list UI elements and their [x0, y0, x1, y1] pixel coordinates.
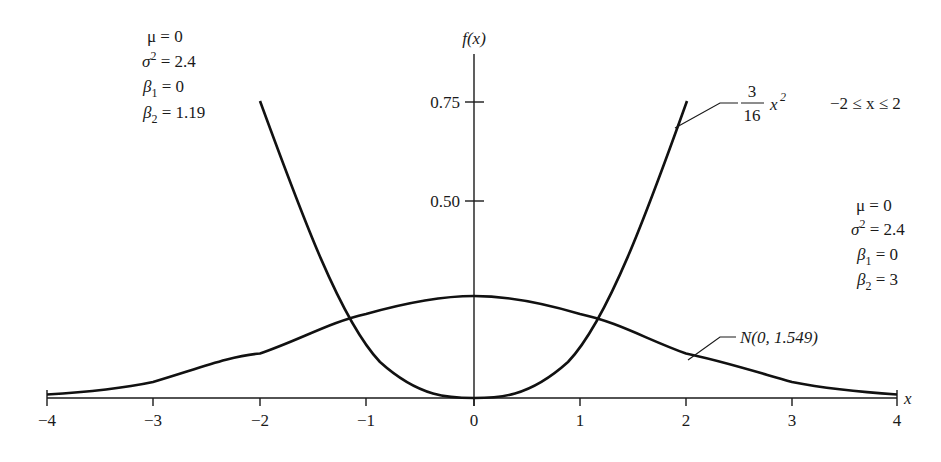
left-param-mu: μ = 0 — [147, 27, 183, 46]
y-tick-label: 0.50 — [430, 192, 460, 211]
parabola-denominator: 16 — [744, 106, 761, 125]
x-tick-label: −1 — [357, 411, 375, 430]
parabola-exponent: 2 — [780, 90, 786, 104]
right-param-beta2: β2 = 3 — [856, 270, 898, 293]
parabola-domain: −2 ≤ x ≤ 2 — [830, 94, 901, 113]
x-tick-label: −4 — [38, 411, 57, 430]
x-tick-label: 2 — [682, 411, 691, 430]
x-tick-label: −3 — [144, 411, 162, 430]
left-params: μ = 0 σ2 = 2.4 β1 = 0 β2 = 1.19 — [142, 27, 205, 126]
y-tick-label: 0.75 — [430, 93, 460, 112]
chart-canvas: −4 −3 −2 −1 0 1 2 3 4 x 0.75 0.50 f(x) 3… — [0, 0, 941, 462]
parabola-variable: x — [769, 95, 778, 114]
right-param-sigma: σ2 = 2.4 — [851, 217, 905, 239]
x-axis-label: x — [903, 389, 912, 408]
left-param-sigma: σ2 = 2.4 — [142, 49, 196, 71]
x-tick-label: 3 — [788, 411, 797, 430]
right-params: μ = 0 σ2 = 2.4 β1 = 0 β2 = 3 — [851, 196, 905, 293]
x-tick-label: 4 — [893, 411, 902, 430]
right-param-mu: μ = 0 — [856, 196, 892, 215]
normal-label: N(0, 1.549) — [739, 328, 818, 347]
normal-label-text: N(0, 1.549) — [739, 328, 818, 347]
parabola-label: 3 16 x 2 −2 ≤ x ≤ 2 — [741, 82, 901, 125]
parabola-numerator: 3 — [748, 82, 757, 101]
x-tick-label: 0 — [470, 411, 479, 430]
x-tick-label: 1 — [576, 411, 585, 430]
y-axis-label: f(x) — [462, 29, 486, 48]
left-param-beta2: β2 = 1.19 — [142, 103, 205, 126]
left-param-beta1: β1 = 0 — [142, 77, 184, 100]
x-tick-label: −2 — [251, 411, 269, 430]
y-axis: 0.75 0.50 f(x) — [430, 29, 486, 406]
right-param-beta1: β1 = 0 — [856, 245, 898, 268]
x-axis: −4 −3 −2 −1 0 1 2 3 4 x — [38, 389, 912, 430]
